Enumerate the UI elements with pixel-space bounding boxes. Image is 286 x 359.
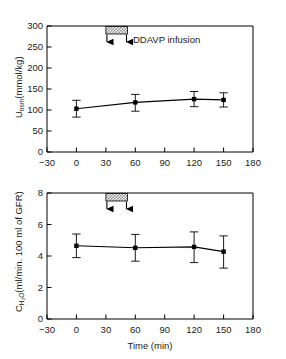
y-ticklabel: 100	[27, 104, 43, 115]
x-ticklabel: −30	[39, 157, 55, 168]
x-ticklabel: 180	[245, 324, 261, 335]
y-axis-title-subscript: osm	[18, 98, 25, 111]
data-point	[192, 97, 196, 101]
data-point	[133, 100, 137, 104]
x-ticklabel: 180	[245, 157, 261, 168]
x-ticklabel: 0	[74, 157, 79, 168]
x-ticklabel: 30	[101, 324, 112, 335]
data-point	[74, 107, 78, 111]
y-ticklabel: 200	[27, 62, 43, 73]
data-point	[221, 249, 225, 253]
y-axis-title-rest: (mmol/kg)	[13, 56, 24, 98]
cropped-caption-strip	[0, 347, 286, 359]
x-ticklabel: 150	[216, 324, 232, 335]
x-ticklabel: 120	[186, 324, 202, 335]
x-ticklabel: 0	[74, 324, 79, 335]
y-ticklabel: 0	[38, 313, 43, 324]
data-point	[133, 246, 137, 250]
x-ticklabel: 150	[216, 157, 232, 168]
x-ticklabel: 60	[130, 324, 141, 335]
x-ticklabel: 120	[186, 157, 202, 168]
y-ticklabel: 0	[38, 146, 43, 157]
two-panel-chart: 0 50 100 150 200 250 300 −30	[0, 0, 286, 359]
x-ticklabel: 90	[159, 157, 170, 168]
x-ticklabel: 90	[159, 324, 170, 335]
ddavp-infusion-label: DDAVP infusion	[133, 34, 200, 45]
data-point	[74, 244, 78, 248]
y-axis-title-subscript: H₂O	[18, 293, 25, 305]
infusion-bar	[106, 194, 128, 201]
infusion-bar	[106, 27, 128, 34]
y-ticklabel: 50	[32, 125, 43, 136]
y-ticklabel: 2	[38, 282, 43, 293]
data-point	[221, 98, 225, 102]
figure-panel-container: 0 50 100 150 200 250 300 −30	[0, 0, 286, 359]
x-ticklabel: 30	[101, 157, 112, 168]
y-ticklabel: 250	[27, 41, 43, 52]
data-point	[192, 245, 196, 249]
x-ticklabel: 60	[130, 157, 141, 168]
y-ticklabel: 300	[27, 20, 43, 31]
y-ticklabel: 6	[38, 219, 43, 230]
y-ticklabel: 150	[27, 83, 43, 94]
y-axis-title-rest: (ml/min. 100 ml of GFR)	[13, 191, 24, 292]
x-ticklabel: −30	[39, 324, 55, 335]
y-ticklabel: 8	[38, 187, 43, 198]
figure-background	[0, 0, 286, 359]
y-ticklabel: 4	[38, 250, 43, 261]
